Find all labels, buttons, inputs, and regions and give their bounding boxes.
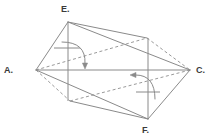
edge-A-E xyxy=(36,22,68,70)
hidden-edge-A-D xyxy=(36,70,70,101)
edge-F-D xyxy=(70,101,148,119)
vertex-label-A: A. xyxy=(4,65,13,75)
hidden-edge-D-C xyxy=(70,70,190,101)
hidden-edge-B-C xyxy=(147,38,190,70)
fold-arrow-upper-curve xyxy=(62,42,85,63)
fold-arrow-lower-curve xyxy=(136,75,155,99)
fold-arrow-upper-arrowhead xyxy=(82,63,87,69)
geometry-diagram-svg: A.C.E.F. xyxy=(0,0,211,136)
hidden-edge-A-B xyxy=(36,38,147,70)
edge-E-B xyxy=(68,22,147,38)
vertex-label-F: F. xyxy=(142,125,149,135)
edge-A-F xyxy=(36,70,148,119)
vertex-label-E: E. xyxy=(61,4,70,14)
solid-edges-group xyxy=(36,22,190,119)
fold-arrow-lower-arrowhead xyxy=(130,72,136,77)
geometry-diagram-canvas: A.C.E.F. xyxy=(0,0,211,136)
edge-F-C xyxy=(148,70,190,119)
vertex-label-C: C. xyxy=(196,65,205,75)
